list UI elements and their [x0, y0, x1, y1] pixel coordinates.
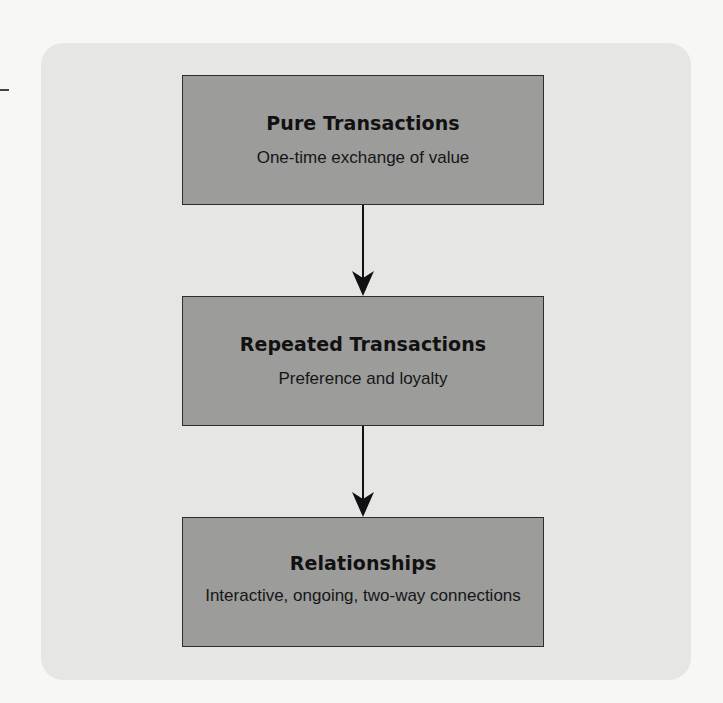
node-title: Repeated Transactions	[240, 333, 487, 355]
node-title: Relationships	[290, 552, 437, 574]
arrow-down-icon	[352, 205, 374, 296]
node-pure-transactions: Pure Transactions One-time exchange of v…	[182, 75, 544, 205]
node-repeated-transactions: Repeated Transactions Preference and loy…	[182, 296, 544, 426]
node-title: Pure Transactions	[266, 112, 460, 134]
arrow-down-icon	[352, 426, 374, 517]
node-description: Interactive, ongoing, two-way connection…	[187, 584, 539, 607]
node-description: Preference and loyalty	[260, 367, 465, 390]
node-relationships: Relationships Interactive, ongoing, two-…	[182, 517, 544, 647]
node-description: One-time exchange of value	[239, 146, 488, 169]
margin-rule	[0, 89, 9, 91]
